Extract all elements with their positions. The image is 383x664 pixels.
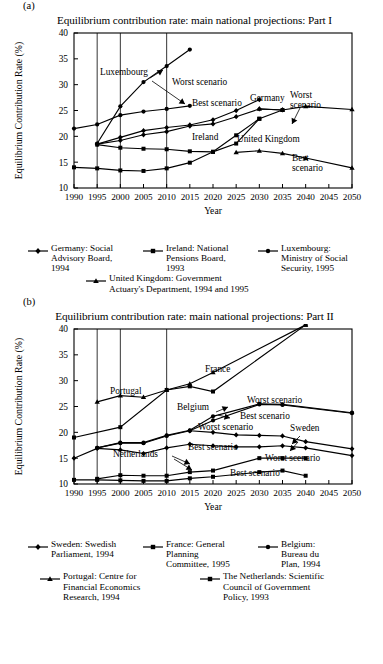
annotation-label: United Kingdom — [237, 134, 301, 144]
x-tick-label: 2025 — [227, 488, 246, 498]
data-point — [211, 468, 215, 472]
data-point — [188, 470, 192, 474]
y-tick-label: 40 — [59, 324, 69, 334]
legend-item: Belgium: Bureau du Plan, 1994 — [258, 539, 368, 570]
data-point — [164, 129, 169, 134]
x-tick-label: 2005 — [134, 192, 153, 202]
data-point — [118, 145, 122, 149]
x-tick-label: 2030 — [250, 488, 269, 498]
legend-item: Portugal: Centre for Financial Economics… — [40, 571, 200, 602]
x-tick-label: 1990 — [65, 192, 84, 202]
annotation-label: Netherlands — [113, 449, 158, 459]
data-point — [118, 137, 123, 142]
x-tick-label: 2010 — [157, 192, 176, 202]
x-tick-label: 2045 — [320, 192, 339, 202]
x-tick-label: 2040 — [296, 192, 315, 202]
data-point — [188, 160, 192, 164]
data-point — [257, 456, 261, 460]
data-point — [234, 114, 239, 119]
data-point — [165, 64, 169, 68]
x-tick-label: 2020 — [204, 488, 223, 498]
annotation-label: France — [205, 364, 230, 374]
y-tick-label: 35 — [59, 350, 69, 360]
panel-b-title: Equilibrium contribution rate: main nati… — [6, 310, 383, 322]
legend-symbol — [86, 273, 106, 285]
data-point — [95, 122, 99, 126]
y-tick-label: 15 — [59, 453, 69, 463]
data-point — [188, 47, 192, 51]
x-tick-label: 2015 — [181, 488, 200, 498]
data-point — [257, 116, 261, 120]
legend-marker-circle — [258, 247, 278, 255]
legend-item: Germany: Social Advisory Board, 1994 — [28, 243, 143, 274]
x-tick-label: 2000 — [111, 192, 130, 202]
x-tick-label: 2050 — [343, 488, 362, 498]
data-point — [234, 432, 239, 437]
annotation-label: Best scenario — [240, 411, 290, 421]
data-point — [165, 166, 169, 170]
x-tick-label: 2035 — [273, 488, 292, 498]
y-axis-title: Equilibrium Contribution Rate (%) — [13, 41, 25, 178]
annotation-label: Worst scenario — [198, 422, 254, 432]
annotation-label: Best scenario — [188, 442, 238, 452]
legend-symbol — [28, 539, 48, 551]
data-point — [165, 473, 169, 477]
y-tick-label: 40 — [59, 28, 69, 38]
legend-label: The Netherlands: Scientific Council of G… — [223, 571, 324, 602]
annotation-label: Ireland — [192, 132, 219, 142]
annotation-label: Germany — [250, 93, 285, 103]
legend-label: Belgium: Bureau du Plan, 1994 — [281, 539, 320, 570]
data-point — [118, 425, 122, 429]
x-tick-label: 2050 — [343, 192, 362, 202]
data-point — [142, 478, 146, 482]
annotation-label: Luxembourg — [100, 67, 148, 77]
legend-marker-diamond — [28, 247, 48, 255]
x-tick-label: 2015 — [181, 192, 200, 202]
annotation-label: Worst scenario — [172, 77, 228, 87]
data-point — [280, 433, 285, 438]
annotation-label: Worstscenario — [290, 90, 321, 110]
panel-a-letter: (a) — [0, 0, 383, 12]
legend-label: United Kingdom: Government Actuary's Dep… — [109, 273, 249, 294]
annotation-label: Portugal — [110, 386, 142, 396]
annotation-label: Worst scenario — [247, 395, 303, 405]
y-tick-label: 30 — [59, 376, 69, 386]
legend-symbol — [143, 539, 163, 551]
y-tick-label: 30 — [59, 80, 69, 90]
data-point — [95, 141, 99, 145]
data-point — [141, 132, 146, 137]
legend-item: Luxembourg: Ministry of Social Security,… — [258, 243, 378, 274]
legend-marker-square — [143, 543, 163, 551]
data-point — [165, 478, 169, 482]
legend-item: The Netherlands: Scientific Council of G… — [200, 571, 380, 602]
data-point — [211, 414, 215, 418]
data-point — [141, 80, 145, 84]
data-point — [95, 477, 99, 481]
data-point — [211, 121, 216, 126]
legend-marker-diamond — [28, 543, 48, 551]
y-tick-label: 20 — [59, 427, 69, 437]
panel-b: (b) Equilibrium contribution rate: main … — [0, 296, 383, 602]
data-point — [304, 473, 308, 477]
data-point — [165, 147, 169, 151]
leader-arrowhead — [179, 98, 185, 104]
x-tick-label: 2020 — [204, 192, 223, 202]
x-tick-label: 1990 — [65, 488, 84, 498]
data-point — [142, 168, 146, 172]
data-point — [95, 445, 100, 450]
legend-symbol — [28, 243, 48, 255]
x-tick-label: 2030 — [250, 192, 269, 202]
legend-marker-triangle — [40, 575, 60, 583]
data-point — [72, 126, 76, 130]
legend-marker-triangle — [86, 277, 106, 285]
data-point — [350, 411, 354, 415]
data-point — [350, 453, 355, 458]
data-point — [303, 445, 308, 450]
x-tick-label: 1995 — [88, 488, 107, 498]
x-tick-label: 2040 — [296, 488, 315, 498]
annotation-label: Bestscenario — [292, 153, 323, 173]
y-tick-label: 20 — [59, 131, 69, 141]
data-point — [303, 439, 308, 444]
x-tick-label: 2025 — [227, 192, 246, 202]
annotation-label: Best scenario — [192, 98, 242, 108]
